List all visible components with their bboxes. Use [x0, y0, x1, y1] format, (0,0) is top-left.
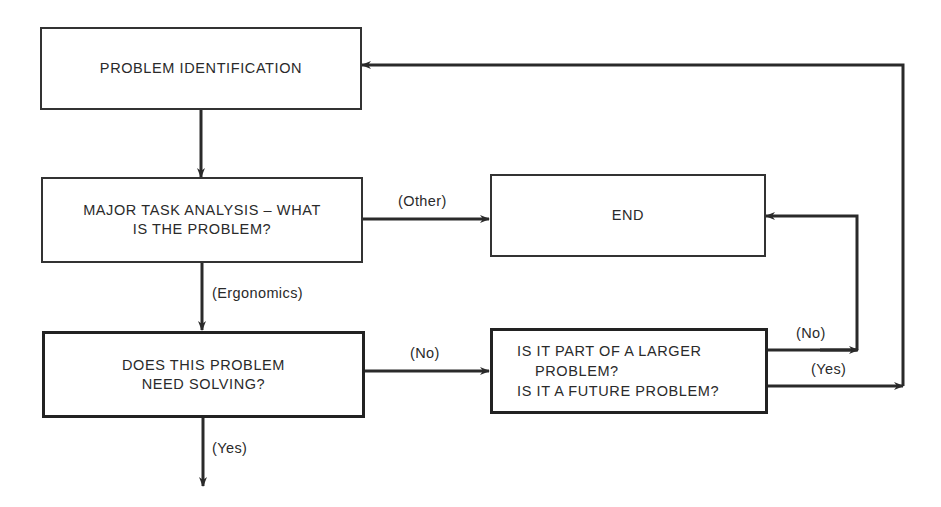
edge-label-yes-1: (Yes) — [212, 440, 247, 456]
edge-label-no-2: (No) — [796, 325, 826, 341]
node-text-line2: IS THE PROBLEM? — [83, 220, 321, 239]
node-text-line2: PROBLEM? — [517, 361, 719, 381]
node-end: END — [490, 174, 766, 257]
edge-label-other: (Other) — [398, 193, 447, 209]
edge-label-yes-2: (Yes) — [811, 361, 846, 377]
node-text: END — [612, 206, 644, 225]
node-text: PROBLEM IDENTIFICATION — [100, 59, 302, 78]
node-larger-problem: IS IT PART OF A LARGER PROBLEM? IS IT A … — [490, 328, 768, 414]
node-problem-identification: PROBLEM IDENTIFICATION — [40, 27, 362, 110]
node-needs-solving: DOES THIS PROBLEM NEED SOLVING? — [42, 331, 365, 418]
node-text-line1: IS IT PART OF A LARGER — [517, 341, 719, 361]
node-text-line1: DOES THIS PROBLEM — [122, 356, 285, 375]
node-text-line2: NEED SOLVING? — [122, 375, 285, 394]
edge-label-ergonomics: (Ergonomics) — [212, 285, 303, 301]
edge-label-no-1: (No) — [410, 345, 440, 361]
node-major-task-analysis: MAJOR TASK ANALYSIS – WHAT IS THE PROBLE… — [41, 177, 363, 263]
node-text-line3: IS IT A FUTURE PROBLEM? — [517, 381, 719, 401]
node-text-line1: MAJOR TASK ANALYSIS – WHAT — [83, 201, 321, 220]
